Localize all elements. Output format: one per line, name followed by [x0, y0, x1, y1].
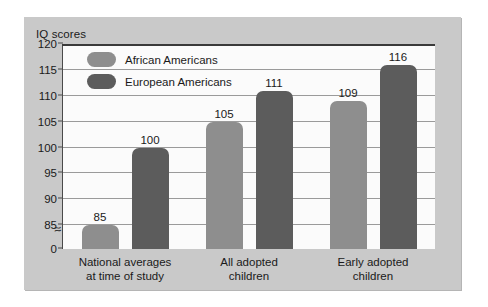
x-axis-label-line: at time of study	[79, 269, 172, 283]
legend-item-african-americans: African Americans	[87, 50, 232, 69]
chart-screenshot: IQ scores 85105109100111116 120115110105…	[0, 0, 488, 307]
legend-item-european-americans: European Americans	[87, 72, 232, 91]
y-tick-label-100: 100	[38, 142, 57, 154]
x-axis-group-label-0: National averagesat time of study	[79, 255, 172, 284]
y-tick-label-90: 90	[44, 193, 57, 205]
x-axis-label-line: All adopted	[220, 255, 278, 269]
bar-value-label-1-2: 116	[389, 51, 407, 63]
x-axis-label-line: children	[220, 269, 278, 283]
y-tick-label-120: 120	[38, 38, 57, 50]
y-tick-mark-95	[58, 172, 63, 173]
y-tick-mark-120	[58, 43, 63, 44]
bar-value-label-0-0: 85	[94, 211, 107, 223]
y-tick-label-0: 0	[51, 243, 57, 255]
x-axis-group-label-2: Early adoptedchildren	[338, 255, 409, 284]
bar-value-label-0-2: 109	[338, 87, 357, 99]
y-tick-mark-115	[58, 68, 63, 69]
y-tick-label-95: 95	[44, 167, 57, 179]
y-tick-label-115: 115	[39, 64, 57, 76]
y-tick-label-110: 110	[39, 90, 57, 102]
bar-value-label-1-0: 100	[140, 134, 159, 146]
chart-legend: African Americans European Americans	[87, 50, 232, 94]
bar-0-2: 109	[330, 101, 367, 249]
y-tick-label-105: 105	[38, 116, 57, 128]
y-tick-mark-100	[58, 146, 63, 147]
legend-swatch-icon-european-americans	[87, 74, 116, 89]
bar-1-2: 116	[380, 65, 417, 249]
plot-area: 85105109100111116 1201151101051009590850…	[62, 44, 435, 249]
x-axis-group-label-1: All adoptedchildren	[220, 255, 278, 284]
bar-0-1: 105	[206, 122, 243, 249]
bar-value-label-1-1: 111	[265, 77, 282, 89]
x-axis-line	[62, 44, 435, 46]
bar-1-0: 100	[132, 148, 169, 249]
y-tick-mark-90	[58, 198, 63, 199]
bar-1-1: 111	[256, 91, 293, 249]
legend-swatch-icon-african-americans	[87, 52, 116, 67]
legend-label-african-americans: African Americans	[125, 54, 218, 66]
x-axis-label-line: children	[338, 269, 409, 283]
bar-0-0: 85	[82, 225, 119, 249]
x-axis-label-line: Early adopted	[338, 255, 409, 269]
y-tick-mark-110	[58, 94, 63, 95]
y-tick-mark-0	[58, 248, 63, 249]
bar-value-label-0-1: 105	[214, 108, 233, 120]
y-tick-mark-105	[58, 120, 63, 121]
legend-label-european-americans: European Americans	[125, 76, 232, 88]
x-axis-label-line: National averages	[79, 255, 172, 269]
